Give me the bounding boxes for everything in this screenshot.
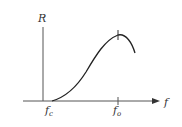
tick-label-fc: fc (44, 104, 53, 118)
x-axis-arrow-icon (152, 98, 160, 104)
resonance-curve-diagram: R f fc fo (0, 0, 182, 127)
diagram-canvas: R f fc fo (0, 0, 182, 127)
tick-label-fo: fo (112, 104, 121, 118)
y-axis-label: R (37, 12, 46, 25)
response-curve (52, 35, 135, 101)
x-axis-label: f (163, 96, 170, 109)
